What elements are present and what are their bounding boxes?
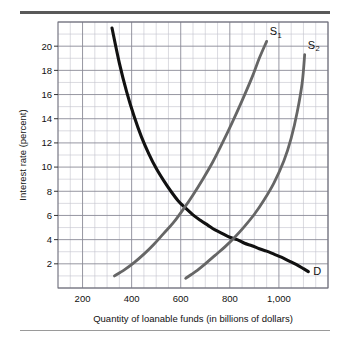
- curve-label-group: S1S2D: [270, 25, 322, 276]
- y-tick-label: 20: [41, 41, 52, 52]
- x-tick-label: 400: [124, 293, 140, 304]
- y-tick-label: 12: [41, 137, 52, 148]
- curve-label-s2: S2: [308, 39, 320, 54]
- curve-s1: [114, 41, 266, 276]
- x-tick-label: 800: [222, 293, 238, 304]
- grid-minor-lines: [58, 22, 328, 288]
- x-tick-label: 1,000: [267, 293, 291, 304]
- y-tick-label: 8: [47, 186, 52, 197]
- y-tick-label: 16: [41, 89, 52, 100]
- curve-label-d: D: [313, 265, 321, 277]
- y-tick-label: 4: [47, 234, 52, 245]
- figure-panel: 2004006008001,0002468101214161820 S1S2D …: [0, 0, 341, 340]
- x-tick-label: 600: [173, 293, 189, 304]
- y-tick-label: 10: [41, 161, 52, 172]
- x-tick-label: 200: [75, 293, 91, 304]
- y-tick-label: 2: [47, 258, 52, 269]
- x-axis-title: Quantity of loanable funds (in billions …: [93, 313, 293, 324]
- curve-label-s1: S1: [270, 25, 282, 40]
- y-axis-title: Interest rate (percent): [17, 109, 28, 200]
- y-tick-label: 6: [47, 210, 52, 221]
- loanable-funds-chart: 2004006008001,0002468101214161820 S1S2D …: [0, 0, 341, 340]
- y-tick-label: 14: [41, 113, 52, 124]
- y-tick-label: 18: [41, 65, 52, 76]
- tick-label-group: 2004006008001,0002468101214161820: [41, 41, 290, 304]
